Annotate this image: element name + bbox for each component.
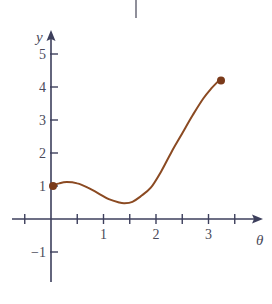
endpoint-dots — [49, 76, 225, 190]
endpoint-dot — [217, 76, 225, 84]
x-tick-label: 1 — [100, 227, 107, 242]
axes — [12, 30, 263, 282]
y-tick-label: 2 — [39, 146, 46, 161]
y-tick-label: 5 — [39, 47, 46, 62]
y-tick-label: 1 — [39, 179, 46, 194]
x-tick-label: 2 — [153, 227, 160, 242]
x-axis-label: θ — [256, 232, 264, 248]
y-tick-label: 3 — [39, 113, 46, 128]
y-axis-label: y — [34, 29, 43, 45]
endpoint-dot — [49, 182, 57, 190]
y-tick-label: −1 — [31, 245, 46, 260]
chart: 123−112345 θ y — [0, 0, 272, 304]
y-tick-label: 4 — [39, 80, 46, 95]
data-curve — [51, 80, 219, 203]
ticks — [25, 54, 235, 252]
x-tick-label: 3 — [205, 227, 212, 242]
tick-labels: 123−112345 — [31, 47, 212, 260]
